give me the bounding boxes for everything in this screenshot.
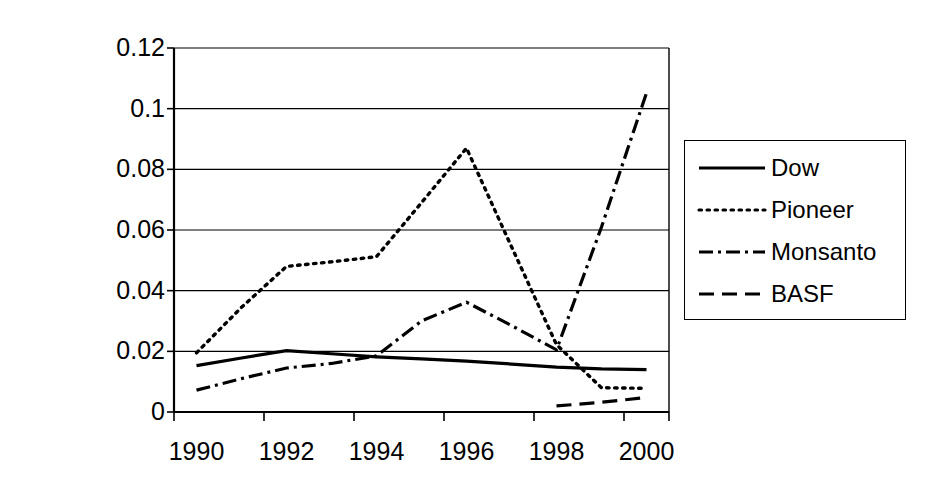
x-axis-tick-labels: 199019921994199619982000 (0, 437, 934, 477)
legend-item-monsanto[interactable]: Monsanto (685, 231, 905, 273)
x-axis-tick-label: 1996 (439, 437, 495, 465)
x-axis-tick-label: 1994 (349, 437, 405, 465)
legend-swatch-dotted-icon (697, 203, 767, 217)
legend-label: BASF (771, 281, 834, 307)
x-axis-tick-label: 1998 (529, 437, 585, 465)
legend-item-dow[interactable]: Dow (685, 147, 905, 189)
legend-item-pioneer[interactable]: Pioneer (685, 189, 905, 231)
legend-label: Dow (771, 155, 819, 181)
series-line-monsanto (197, 93, 647, 390)
x-axis-tick-label: 1992 (259, 437, 315, 465)
legend-swatch-dashed-icon (697, 287, 767, 301)
legend-swatch-solid-icon (697, 161, 767, 175)
x-axis-tick-label: 1990 (169, 437, 225, 465)
legend-swatch-dash-dot-icon (697, 245, 767, 259)
x-axis-tick-label: 2000 (619, 437, 675, 465)
series-line-pioneer (197, 148, 647, 388)
legend-label: Monsanto (771, 239, 876, 265)
series-line-basf (557, 397, 647, 405)
chart-figure: Per $1000 Net Sales 00.020.040.060.080.1… (0, 0, 934, 492)
chart-legend: DowPioneerMonsantoBASF (684, 140, 906, 320)
legend-item-basf[interactable]: BASF (685, 273, 905, 315)
legend-label: Pioneer (771, 197, 854, 223)
